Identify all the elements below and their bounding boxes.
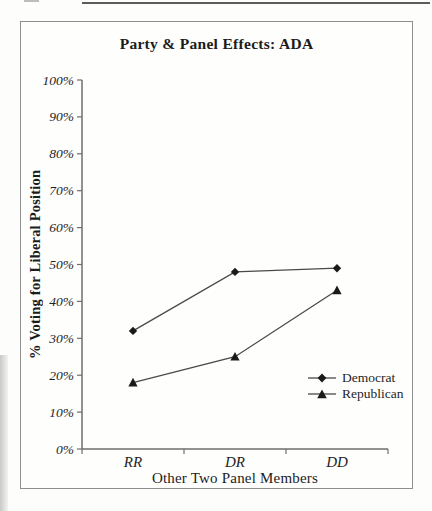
page-edge-mark [24,0,39,2]
svg-text:70%: 70% [49,183,74,198]
plot-area: 0%10%20%30%40%50%60%70%80%90%100%RRDRDD [21,22,410,485]
legend-label-democrat: Democrat [342,370,395,386]
x-axis-title: Other Two Panel Members [82,470,388,487]
svg-text:60%: 60% [49,220,74,235]
democrat-diamond-marker-icon [307,372,337,384]
republican-triangle-marker-icon [307,388,337,400]
svg-text:90%: 90% [49,109,74,124]
svg-text:50%: 50% [49,257,74,272]
page-top-rule [82,2,430,4]
chart-frame: 0%10%20%30%40%50%60%70%80%90%100%RRDRDD … [20,21,413,489]
svg-text:30%: 30% [48,331,74,346]
legend-item-republican: Republican [307,387,403,401]
svg-text:DD: DD [325,454,348,470]
scan-edge-artifact [0,355,8,511]
legend-label-republican: Republican [342,386,403,402]
svg-text:100%: 100% [43,73,75,88]
y-axis-title: % Voting for Liberal Position [24,80,46,449]
svg-text:0%: 0% [56,442,74,457]
svg-text:20%: 20% [49,368,74,383]
svg-text:80%: 80% [49,146,74,161]
legend: Democrat Republican [307,371,403,401]
svg-text:RR: RR [123,454,142,470]
chart-title: Party & Panel Effects: ADA [21,35,412,53]
svg-text:DR: DR [224,454,245,470]
svg-text:40%: 40% [49,294,74,309]
svg-text:10%: 10% [49,405,74,420]
legend-item-democrat: Democrat [307,371,403,385]
